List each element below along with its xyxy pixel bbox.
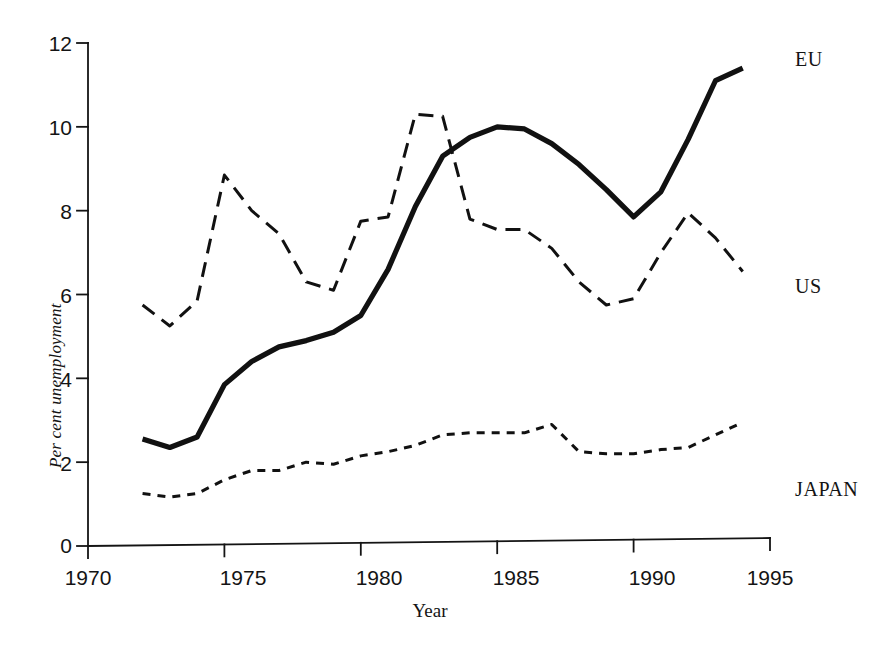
chart-plot-area <box>0 0 872 649</box>
y-tick-label-12: 12 <box>16 32 72 56</box>
series-label-japan: JAPAN <box>795 478 858 501</box>
x-tick-label-1985: 1985 <box>468 566 564 590</box>
series-line-us <box>143 114 743 326</box>
series-line-eu <box>143 68 743 447</box>
series-label-us: US <box>795 275 822 298</box>
unemployment-line-chart: 12 10 8 6 4 2 0 1970 1975 1980 1985 1990… <box>0 0 872 649</box>
x-tick-label-1980: 1980 <box>331 566 427 590</box>
series-paths <box>143 68 743 497</box>
x-axis-title: Year <box>330 600 530 622</box>
series-line-japan <box>143 422 743 497</box>
x-tick-label-1970: 1970 <box>40 566 136 590</box>
y-tick-label-8: 8 <box>16 200 72 224</box>
x-tick-label-1995: 1995 <box>722 566 818 590</box>
y-tick-label-0: 0 <box>16 534 72 558</box>
tick-marks <box>77 43 770 558</box>
axis-lines <box>88 43 770 546</box>
series-label-eu: EU <box>795 48 823 71</box>
y-tick-label-10: 10 <box>16 116 72 140</box>
x-tick-label-1990: 1990 <box>604 566 700 590</box>
y-axis-title: Per cent unemployment <box>46 303 66 468</box>
x-tick-label-1975: 1975 <box>195 566 291 590</box>
